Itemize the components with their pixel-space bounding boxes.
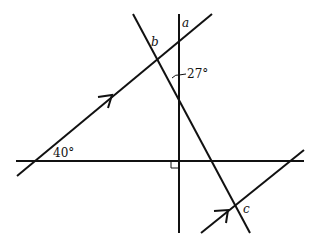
angle-arc-27 xyxy=(172,75,179,78)
label-a: a xyxy=(182,16,189,30)
angle-pointer-27 xyxy=(179,74,186,75)
label-b: b xyxy=(151,35,159,49)
right-angle-marker xyxy=(171,161,179,168)
label-c: c xyxy=(243,202,250,216)
geometry-diagram: a b c 27° 40° xyxy=(0,0,317,247)
parallel-line-lower xyxy=(201,150,304,233)
angle-label-40: 40° xyxy=(53,146,74,160)
angle-label-27: 27° xyxy=(187,67,208,81)
parallel-line-upper xyxy=(17,14,212,176)
